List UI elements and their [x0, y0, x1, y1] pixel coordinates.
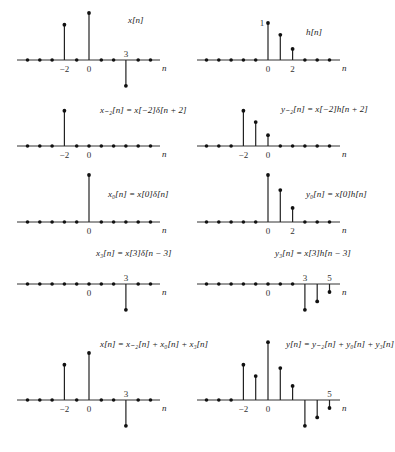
tick-label: 5 [327, 389, 332, 399]
tick-label: −2 [60, 404, 70, 414]
panel-x_0: n0x₀[n] = x[0]δ[n] [17, 173, 169, 236]
zero-sample-dot [124, 144, 128, 148]
sample-dot [63, 23, 67, 27]
tick-label: 3 [124, 49, 129, 59]
panel-x_m2: n−20x₋₂[n] = x[−2]δ[n + 2] [17, 105, 187, 160]
zero-sample-dot [100, 58, 104, 62]
zero-sample-dot [254, 220, 258, 224]
zero-sample-dot [136, 282, 140, 286]
zero-sample-dot [229, 398, 233, 402]
tick-label: −2 [239, 150, 249, 160]
sample-dot [278, 33, 282, 37]
zero-sample-dot [100, 282, 104, 286]
tick-label: 0 [87, 288, 92, 298]
zero-sample-dot [112, 398, 116, 402]
panel-x: n−203x[n] [17, 11, 167, 88]
sample-dot [124, 84, 128, 88]
axis-label: n [342, 403, 347, 413]
axis-label: n [162, 403, 167, 413]
zero-sample-dot [75, 58, 79, 62]
panel-x_sum: n−203x[n] = x₋₂[n] + x₀[n] + x₃[n] [17, 339, 209, 428]
sample-dot [291, 206, 295, 210]
sample-dot [328, 290, 332, 294]
sample-dot [87, 173, 91, 177]
tick-label: 0 [87, 150, 92, 160]
zero-sample-dot [50, 58, 54, 62]
sample-dot [278, 366, 282, 370]
zero-sample-dot [291, 282, 295, 286]
zero-sample-dot [217, 144, 221, 148]
zero-sample-dot [328, 144, 332, 148]
zero-sample-dot [112, 58, 116, 62]
zero-sample-dot [136, 220, 140, 224]
tick-label: 3 [124, 389, 129, 399]
zero-sample-dot [38, 282, 42, 286]
axis-label: n [342, 149, 347, 159]
zero-sample-dot [38, 144, 42, 148]
zero-sample-dot [112, 144, 116, 148]
zero-sample-dot [149, 282, 153, 286]
zero-sample-dot [315, 144, 319, 148]
sample-dot [242, 109, 246, 113]
zero-sample-dot [254, 58, 258, 62]
zero-sample-dot [229, 282, 233, 286]
zero-sample-dot [136, 398, 140, 402]
panel-title: x₋₂[n] = x[−2]δ[n + 2] [99, 105, 187, 115]
sample-dot [63, 109, 67, 113]
zero-sample-dot [38, 58, 42, 62]
panel-title: y₋₂[n] = x[−2]h[n + 2] [280, 104, 368, 114]
zero-sample-dot [63, 282, 67, 286]
tick-label: 5 [327, 273, 332, 283]
axis-label: n [162, 225, 167, 235]
panel-title: x₀[n] = x[0]δ[n] [107, 189, 169, 199]
zero-sample-dot [205, 282, 209, 286]
zero-sample-dot [136, 58, 140, 62]
tick-label: 2 [290, 64, 295, 74]
zero-sample-dot [205, 58, 209, 62]
zero-sample-dot [279, 282, 283, 286]
zero-sample-dot [26, 282, 30, 286]
zero-sample-dot [112, 282, 116, 286]
zero-sample-dot [136, 144, 140, 148]
tick-label: 3 [124, 273, 129, 283]
zero-sample-dot [205, 144, 209, 148]
tick-label: 0 [87, 64, 92, 74]
zero-sample-dot [50, 144, 54, 148]
axis-label: n [342, 287, 347, 297]
zero-sample-dot [26, 144, 30, 148]
sample-dot [87, 11, 91, 15]
zero-sample-dot [26, 398, 30, 402]
zero-sample-dot [242, 58, 246, 62]
sample-dot [242, 363, 246, 367]
panel-title: x[n] [127, 15, 144, 25]
sample-dot [266, 173, 270, 177]
zero-sample-dot [229, 144, 233, 148]
tick-label: −2 [239, 404, 249, 414]
axis-label: n [162, 149, 167, 159]
axis-label: n [342, 225, 347, 235]
panel-y_sum: n−205y[n] = y₋₂[n] + y₀[n] + y₃[n] [197, 339, 395, 428]
tick-label: 3 [303, 273, 308, 283]
zero-sample-dot [100, 144, 104, 148]
zero-sample-dot [149, 144, 153, 148]
panel-y_m2: n−20y₋₂[n] = x[−2]h[n + 2] [197, 104, 368, 160]
tick-label: 0 [266, 404, 271, 414]
panel-y_0: n02y₀[n] = x[0]h[n] [197, 173, 367, 236]
zero-sample-dot [50, 220, 54, 224]
zero-sample-dot [50, 282, 54, 286]
zero-sample-dot [328, 220, 332, 224]
tick-label: 0 [87, 404, 92, 414]
sample-dot [124, 308, 128, 312]
zero-sample-dot [217, 398, 221, 402]
sample-dot [254, 374, 258, 378]
zero-sample-dot [217, 58, 221, 62]
sample-dot [303, 424, 307, 428]
zero-sample-dot [328, 58, 332, 62]
zero-sample-dot [75, 282, 79, 286]
zero-sample-dot [303, 220, 307, 224]
zero-sample-dot [217, 282, 221, 286]
tick-label: 2 [290, 226, 295, 236]
zero-sample-dot [205, 220, 209, 224]
tick-label: 0 [266, 226, 271, 236]
zero-sample-dot [242, 220, 246, 224]
